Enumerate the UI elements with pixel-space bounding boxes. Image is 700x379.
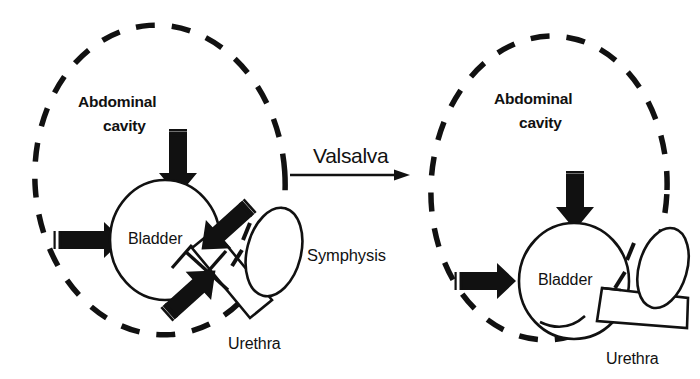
pressure-arrow-down [556, 171, 594, 230]
abdominal-cavity-label-line1: Abdominal [494, 90, 572, 107]
arrow-right-icon [290, 170, 410, 181]
urethra-label: Urethra [228, 335, 281, 352]
abdominal-cavity-label-line2: cavity [103, 117, 146, 134]
symphysis-label: Symphysis [307, 246, 386, 264]
diagram-canvas: Abdominal cavity Bladder [0, 0, 700, 379]
abdominal-cavity-label-line1: Abdominal [78, 93, 156, 110]
bladder-label: Bladder [538, 271, 593, 288]
panel-before: Abdominal cavity Bladder [24, 17, 385, 353]
urethra-label: Urethra [606, 350, 659, 367]
anatomy-diagram: Abdominal cavity Bladder [0, 0, 700, 379]
panel-after: Abdominal cavity Bladder [423, 30, 697, 367]
valsalva-transition: Valsalva [290, 144, 410, 181]
abdominal-cavity-label-line2: cavity [519, 114, 562, 131]
valsalva-label: Valsalva [313, 144, 389, 167]
bladder-label: Bladder [128, 230, 183, 247]
